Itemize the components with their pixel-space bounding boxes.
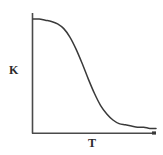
chart-figure: K T [0,0,163,155]
x-axis-end-cap [152,131,156,134]
x-axis-label: T [88,137,96,149]
plot-area [0,0,163,155]
y-axis-label: K [9,64,18,76]
sigmoid-decay-curve [33,19,156,129]
